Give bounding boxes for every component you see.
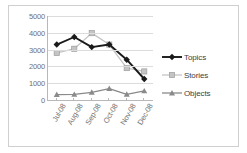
legend-marker-square-icon xyxy=(161,69,183,81)
legend-label: Objects xyxy=(184,89,210,98)
legend-item-objects[interactable]: Objects xyxy=(161,84,235,102)
y-tick-label: 0 xyxy=(41,96,45,105)
gridline xyxy=(48,33,153,34)
x-tick-label: Jul-08 xyxy=(50,102,67,123)
x-tick-mark xyxy=(108,98,109,101)
legend-label: Stories xyxy=(184,71,208,80)
data-point-marker xyxy=(106,86,112,91)
x-tick-mark xyxy=(73,98,74,101)
legend-marker-triangle-icon xyxy=(161,87,183,99)
data-point-marker xyxy=(54,41,60,47)
x-tick-label: Nov-08 xyxy=(118,102,137,126)
plot-area xyxy=(47,16,153,101)
x-tick-mark xyxy=(91,98,92,101)
legend-marker-diamond-icon xyxy=(161,51,183,63)
series-topics xyxy=(54,34,148,82)
series-line xyxy=(57,37,145,79)
data-point-marker xyxy=(141,88,147,93)
y-tick-label: 3000 xyxy=(29,45,45,54)
x-axis: Jul-08Aug-08Sep-08Oct-08Nov-08Dec-08 xyxy=(47,102,152,142)
x-tick-mark xyxy=(126,98,127,101)
data-point-marker xyxy=(169,54,175,60)
series-line xyxy=(57,89,145,95)
x-tick-label: Aug-08 xyxy=(66,102,85,126)
x-tick-label: Sep-08 xyxy=(83,102,102,126)
data-point-marker xyxy=(169,72,174,77)
gridline xyxy=(48,83,153,84)
y-tick-label: 4000 xyxy=(29,28,45,37)
gridline xyxy=(48,66,153,67)
series-objects xyxy=(54,86,148,97)
x-tick-label: Dec-08 xyxy=(136,102,155,126)
x-tick-mark xyxy=(56,98,57,101)
y-tick-label: 2000 xyxy=(29,62,45,71)
legend-item-topics[interactable]: Topics xyxy=(161,48,235,66)
series-canvas xyxy=(48,16,153,100)
gridline xyxy=(48,16,153,17)
legend-item-stories[interactable]: Stories xyxy=(161,66,235,84)
y-tick-label: 5000 xyxy=(29,12,45,21)
data-point-marker xyxy=(142,69,147,74)
x-tick-mark xyxy=(143,98,144,101)
y-tick-label: 1000 xyxy=(29,79,45,88)
chart-legend: TopicsStoriesObjects xyxy=(161,48,235,102)
chart-frame: 010002000300040005000 Jul-08Aug-08Sep-08… xyxy=(8,5,239,147)
y-axis: 010002000300040005000 xyxy=(11,16,45,100)
gridline xyxy=(48,50,153,51)
data-point-marker xyxy=(54,50,59,55)
chart-plot-wrapper: 010002000300040005000 Jul-08Aug-08Sep-08… xyxy=(9,6,238,146)
legend-label: Topics xyxy=(184,53,206,62)
